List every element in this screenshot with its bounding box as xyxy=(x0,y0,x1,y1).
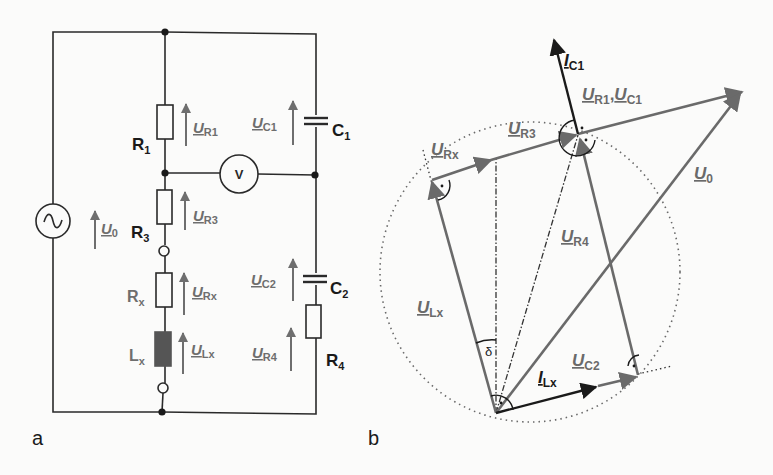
panel-label-a: a xyxy=(32,427,44,449)
label-lx: Lx xyxy=(129,347,146,367)
right-angle-urx xyxy=(438,180,450,200)
right-angle-dot xyxy=(581,127,584,130)
wire-right-bottom xyxy=(162,338,316,414)
resistor-r4 xyxy=(306,305,321,338)
phasor-ulx xyxy=(432,182,496,413)
phasor-u0 xyxy=(496,94,740,413)
label-c2: C2 xyxy=(330,279,348,300)
resistor-rx xyxy=(156,273,172,307)
junction-top xyxy=(161,28,168,35)
phasor-ur4 xyxy=(580,139,638,375)
wire-left-bottom xyxy=(53,237,162,412)
junction-bottom xyxy=(158,408,165,415)
right-angle-dot xyxy=(500,402,503,405)
label-r4: R4 xyxy=(326,351,345,372)
figure: V R1 R3 C1 C2 R4 Rx Lx U0 UR1 UR3 URx UL… xyxy=(0,0,773,475)
phasor-urx xyxy=(432,160,491,180)
label-ur3: UR3 xyxy=(508,119,536,141)
angle-delta-arc xyxy=(476,340,496,343)
label-r3: R3 xyxy=(131,223,149,244)
wire-bridge-right xyxy=(258,174,315,175)
label-u0: U0 xyxy=(101,220,118,239)
label-ilx: ILx xyxy=(538,368,557,390)
label-ur3: UR3 xyxy=(193,207,218,226)
label-ur1: UR1 xyxy=(193,119,218,138)
junction-mid-right xyxy=(311,171,318,178)
wire-left-loop xyxy=(53,32,165,205)
label-r1: R1 xyxy=(132,135,150,156)
phasor-diagram: IC1 UR1,UC1 UR3 URx U0 UR4 ULx ILx UC2 δ xyxy=(380,40,742,422)
angle-delta-label: δ xyxy=(485,344,492,359)
label-ic1: IC1 xyxy=(564,51,584,73)
resistor-r1 xyxy=(157,105,173,139)
voltmeter-label: V xyxy=(235,167,244,182)
label-rx: Rx xyxy=(127,288,146,308)
terminal-lower xyxy=(158,383,168,393)
label-c1: C1 xyxy=(332,121,350,142)
label-ulx: ULx xyxy=(417,298,444,320)
right-angle-dot xyxy=(441,185,444,188)
reference-diagonal xyxy=(496,135,578,413)
terminal-upper xyxy=(159,246,169,256)
label-urx: URx xyxy=(192,283,218,302)
label-ur4: UR4 xyxy=(561,227,589,249)
resistor-r3 xyxy=(157,190,172,224)
label-ulx: ULx xyxy=(191,341,216,360)
label-uc1: UC1 xyxy=(252,114,277,133)
label-uc2: UC2 xyxy=(572,351,600,373)
label-uc2: UC2 xyxy=(251,271,276,290)
panel-label-b: b xyxy=(368,427,379,449)
label-ur4: UR4 xyxy=(252,344,278,363)
label-ur1-uc1: UR1,UC1 xyxy=(582,85,642,107)
right-angle-dot xyxy=(633,365,636,368)
right-angle-dot xyxy=(585,139,588,142)
extension-ilx xyxy=(638,366,672,374)
junction-mid-left xyxy=(161,169,168,176)
inductor-lx xyxy=(155,332,171,366)
label-urx: URx xyxy=(431,140,459,162)
figure-svg: V R1 R3 C1 C2 R4 Rx Lx U0 UR1 UR3 URx UL… xyxy=(0,0,773,475)
phasor-uc2 xyxy=(598,377,636,386)
label-u0: U0 xyxy=(694,164,713,186)
phasor-ilx xyxy=(496,387,596,413)
